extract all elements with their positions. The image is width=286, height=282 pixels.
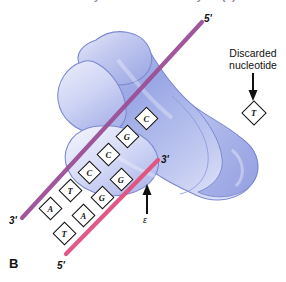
discarded-nucleotide-label: Discarded nucleotide [215,47,286,72]
nascent-three-prime-label: 3' [161,155,169,165]
epsilon-subunit-label: ε [143,216,147,225]
panel-label: B [9,257,18,270]
discarded-nucleotide-arrow [249,73,258,101]
epsilon-pointer-arrow [143,184,152,214]
template-five-prime-label: 5' [204,14,212,24]
discarded-label-line-1: Discarded [215,47,286,59]
nascent-five-prime-label: 5' [57,261,65,271]
template-three-prime-label: 3' [9,216,17,226]
figure-canvas: DNA Polymerase III Holoenzyme (?) [0,0,286,282]
arrow-layer [0,0,286,282]
discarded-label-line-2: nucleotide [215,59,286,71]
